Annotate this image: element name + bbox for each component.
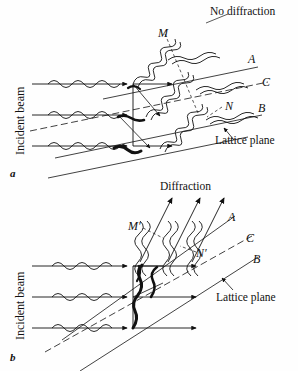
scattered-wave-3 xyxy=(160,104,203,149)
upper-wave-5 xyxy=(206,112,254,120)
panel-a-point-N: N xyxy=(225,100,233,112)
panel-b-incident-beam-label: Incident beam xyxy=(14,272,26,340)
panel-a-scattered-waves xyxy=(133,39,208,152)
leader-N-prime xyxy=(180,246,196,252)
scattered-wave-3b xyxy=(165,107,208,152)
panel-b-point-M-prime: M′ xyxy=(128,220,141,232)
scatter-diagonal-1 xyxy=(133,84,160,116)
upper-wave-2 xyxy=(172,56,220,64)
panel-a-incident-rays xyxy=(32,81,127,150)
line-A-b xyxy=(62,216,235,340)
panel-b-lattice-plane-label: Lattice plane xyxy=(216,292,276,304)
panel-a-ray-A: A xyxy=(248,53,255,65)
panel-a-ray-B: B xyxy=(258,102,265,114)
panel-b-point-N-prime: N′ xyxy=(196,247,207,259)
panel-b-diffracted-arrows xyxy=(140,198,224,262)
panel-b-graphics xyxy=(32,198,258,371)
panel-b-ray-C: C xyxy=(246,232,254,244)
panel-b-ray-A: A xyxy=(228,211,235,223)
panel-a-incident-beam-label: Incident beam xyxy=(14,87,26,155)
panel-b-label: b xyxy=(10,352,16,363)
diffraction-figure: No diffraction M A C N B Lattice plane I… xyxy=(0,0,298,371)
scattered-wave-2 xyxy=(146,72,189,117)
panel-a-title: No diffraction xyxy=(210,6,275,18)
panel-a-point-M: M xyxy=(158,27,168,39)
bold-wavelet-a1 xyxy=(118,116,144,121)
line-B-b xyxy=(80,257,258,371)
panel-b-incident-rays xyxy=(32,263,127,332)
scattered-wave-1b xyxy=(138,42,181,87)
panel-b-transmitted-rays xyxy=(133,266,196,328)
diffracted-arrow-1 xyxy=(140,198,172,262)
leader-N xyxy=(207,107,222,117)
upper-wave-3 xyxy=(196,82,244,90)
panel-a-graphics xyxy=(30,14,268,178)
panel-b-title: Diffraction xyxy=(160,181,211,193)
panel-a-ray-C: C xyxy=(262,76,270,88)
upper-wave-1 xyxy=(168,52,216,60)
bold-wavelet-a2 xyxy=(114,146,141,152)
panel-a-label: a xyxy=(10,168,16,179)
scattered-wave-1 xyxy=(133,39,176,84)
panel-a-lattice-plane-label: Lattice plane xyxy=(215,135,275,147)
leader-M xyxy=(165,34,198,113)
panel-a-upper-waves xyxy=(168,52,258,124)
leader-lattice-plane-b xyxy=(222,278,233,290)
panel-b-ray-B: B xyxy=(253,253,260,265)
